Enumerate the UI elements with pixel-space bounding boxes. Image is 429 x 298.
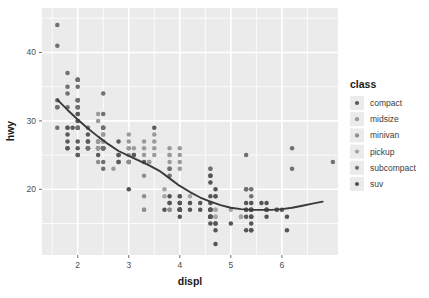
data-point (213, 194, 218, 199)
data-point (127, 146, 132, 151)
data-point (167, 167, 172, 172)
data-point (142, 208, 147, 213)
data-point (65, 91, 70, 96)
legend-key-marker (355, 150, 359, 154)
data-point (244, 187, 249, 192)
data-point (75, 125, 80, 129)
y-tick-label: 30 (27, 116, 37, 126)
legend-key-marker (355, 101, 359, 105)
data-point (142, 194, 147, 199)
data-point (111, 167, 116, 172)
data-point (213, 208, 218, 213)
x-tick-label: 2 (75, 260, 80, 270)
data-point (213, 228, 218, 233)
data-point (249, 201, 254, 206)
legend-item-compact[interactable]: compact (350, 96, 403, 110)
legend-item-label: compact (370, 98, 403, 108)
data-point (244, 201, 249, 206)
data-point (152, 153, 157, 158)
x-tick-label: 5 (228, 260, 233, 270)
data-point (147, 160, 152, 165)
data-point (142, 146, 147, 151)
y-tick-label: 20 (27, 184, 37, 194)
data-point (75, 153, 80, 158)
data-point (142, 173, 147, 178)
data-point (167, 146, 172, 151)
data-point (198, 208, 203, 213)
legend-item-minivan[interactable]: minivan (350, 128, 400, 142)
data-point (167, 153, 172, 158)
data-point (178, 201, 183, 206)
legend-item-subcompact[interactable]: subcompact (350, 161, 416, 175)
data-point (96, 153, 101, 158)
data-point (208, 173, 213, 178)
legend-key-marker (355, 133, 359, 137)
data-point (167, 160, 172, 165)
data-point (167, 201, 172, 206)
data-point (75, 112, 80, 117)
legend-item-label: midsize (370, 114, 399, 124)
data-point (96, 112, 101, 117)
legend-key-marker (355, 117, 359, 121)
data-point (116, 153, 121, 158)
data-point (55, 23, 60, 28)
data-point (116, 139, 121, 144)
legend-key-marker (355, 166, 359, 170)
data-point (162, 194, 167, 199)
data-point (75, 146, 80, 151)
data-point (65, 71, 70, 76)
data-point (55, 105, 60, 110)
data-point (116, 160, 121, 165)
data-point (142, 139, 147, 144)
data-point (188, 194, 193, 199)
data-point (213, 221, 218, 226)
data-point (75, 105, 80, 110)
data-point (259, 201, 264, 206)
data-point (75, 98, 80, 103)
y-axis-title: hwy (4, 121, 16, 142)
data-point (167, 194, 172, 199)
data-point (86, 146, 91, 151)
data-point (101, 167, 106, 172)
data-point (96, 139, 101, 144)
data-point (208, 167, 213, 172)
data-point (178, 153, 183, 158)
legend-item-label: subcompact (370, 163, 416, 173)
data-point (178, 214, 183, 219)
data-point (86, 139, 91, 144)
data-point (96, 146, 101, 151)
data-point (244, 214, 249, 219)
data-point (75, 78, 80, 83)
legend-item-pickup[interactable]: pickup (350, 145, 395, 159)
data-point (290, 167, 295, 172)
data-point (127, 187, 132, 192)
data-point (142, 153, 147, 158)
data-point (55, 43, 60, 48)
data-point (167, 208, 172, 213)
data-point (249, 194, 254, 199)
data-point (101, 132, 106, 137)
data-point (178, 208, 183, 213)
data-point (290, 146, 295, 151)
data-point (249, 221, 254, 226)
data-point (101, 160, 106, 165)
data-point (264, 214, 269, 219)
data-point (244, 228, 249, 233)
data-point (127, 160, 132, 165)
data-point (249, 214, 254, 219)
data-point (75, 139, 80, 144)
panel-background (42, 8, 338, 255)
x-tick-label: 6 (279, 260, 284, 270)
data-point (127, 139, 132, 144)
data-point (285, 228, 290, 233)
data-point (188, 201, 193, 206)
legend-item-midsize[interactable]: midsize (350, 112, 399, 126)
panel-group (42, 8, 338, 255)
legend-item-label: pickup (370, 147, 395, 157)
data-point (96, 119, 101, 124)
data-point (249, 228, 254, 233)
data-point (162, 208, 167, 213)
data-point (213, 242, 218, 247)
data-point (65, 139, 70, 144)
data-point (96, 160, 101, 165)
